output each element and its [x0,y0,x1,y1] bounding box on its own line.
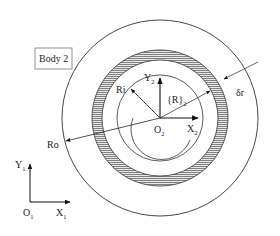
ri-arrow [131,89,160,118]
ri-label: Ri [116,84,126,95]
delta-r-label: δr [236,87,245,98]
frame-label: {R}2 [167,94,187,107]
ro-arrow [66,118,160,141]
x1-label: X1 [56,207,66,220]
body-label: Body 2 [39,53,68,64]
o2-label: O2 [154,124,164,137]
delta-r-arrow [224,62,258,79]
y2-label: Y2 [144,72,154,85]
x2-label: X2 [187,123,197,136]
o1-label: O1 [23,207,33,220]
ro-label: Ro [47,139,59,150]
y1-label: Y1 [15,159,25,172]
diagram-canvas: Body 2 Ri Ro δr {R}2 Y2 X2 O2 Y1 X1 O1 [0,0,280,236]
